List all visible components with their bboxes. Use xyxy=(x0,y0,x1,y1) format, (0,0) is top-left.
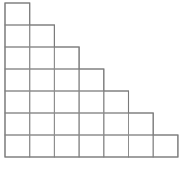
grid-cell xyxy=(104,135,129,157)
grid-cell xyxy=(30,113,55,135)
grid-cell xyxy=(5,25,30,47)
grid-cell xyxy=(30,91,55,113)
grid-cell xyxy=(54,47,79,69)
grid-cell xyxy=(30,135,55,157)
grid-cell xyxy=(5,47,30,69)
grid-cell xyxy=(5,113,30,135)
staircase-figure xyxy=(0,0,183,177)
grid-cell xyxy=(30,47,55,69)
grid-cell xyxy=(54,91,79,113)
grid-cell xyxy=(30,25,55,47)
staircase-outline xyxy=(5,3,178,157)
grid-cell xyxy=(54,113,79,135)
grid-cell xyxy=(129,113,154,135)
grid-cell xyxy=(79,91,104,113)
grid-cell xyxy=(129,135,154,157)
grid-cell xyxy=(104,91,129,113)
grid-cell xyxy=(5,3,30,25)
grid-cell xyxy=(79,135,104,157)
staircase-diagram xyxy=(0,0,183,177)
grid-cell xyxy=(5,135,30,157)
grid-cell xyxy=(5,69,30,91)
grid-cell xyxy=(104,113,129,135)
grid-cell xyxy=(153,135,178,157)
grid-cell xyxy=(30,69,55,91)
grid-cell xyxy=(79,69,104,91)
grid-cells-layer xyxy=(5,3,178,157)
grid-cell xyxy=(54,69,79,91)
grid-cell xyxy=(5,91,30,113)
grid-cell xyxy=(54,135,79,157)
grid-cell xyxy=(79,113,104,135)
